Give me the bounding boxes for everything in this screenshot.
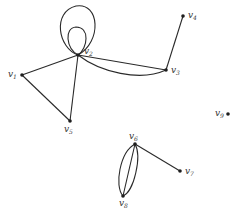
label-v9: v9 bbox=[215, 108, 224, 119]
vertices bbox=[20, 14, 230, 198]
edge-v2-v5 bbox=[70, 55, 78, 121]
edge-v2-loop-large bbox=[60, 6, 95, 55]
label-v3: v3 bbox=[171, 65, 180, 76]
vertex-v7 bbox=[178, 169, 182, 173]
vertex-v1 bbox=[20, 73, 24, 77]
edge-v1-v5 bbox=[22, 75, 70, 121]
label-v7: v7 bbox=[185, 166, 194, 177]
label-v5: v5 bbox=[64, 124, 73, 135]
label-v2: v2 bbox=[84, 46, 93, 57]
vertex-v5 bbox=[68, 119, 72, 123]
graph-diagram: v1 v2 v3 v4 v5 v6 v7 v8 v9 bbox=[0, 0, 244, 221]
label-v1: v1 bbox=[8, 69, 17, 80]
edge-v6-v7 bbox=[135, 144, 180, 171]
label-v8: v8 bbox=[119, 198, 128, 209]
label-v6: v6 bbox=[129, 131, 138, 142]
edge-v1-v2 bbox=[22, 55, 78, 75]
edge-v6-v8-straight bbox=[123, 144, 135, 196]
edge-v2-v3-straight bbox=[78, 55, 166, 70]
vertex-v2 bbox=[76, 53, 80, 57]
edge-v2-v3-curved bbox=[78, 55, 166, 75]
vertex-v9 bbox=[226, 112, 230, 116]
vertex-v6 bbox=[133, 142, 137, 146]
vertex-v3 bbox=[164, 68, 168, 72]
edges bbox=[22, 6, 183, 196]
labels: v1 v2 v3 v4 v5 v6 v7 v8 v9 bbox=[8, 10, 224, 209]
edge-v6-v8-curved-left bbox=[119, 144, 135, 196]
label-v4: v4 bbox=[188, 10, 197, 21]
edge-v3-v4 bbox=[166, 16, 183, 70]
vertex-v4 bbox=[181, 14, 185, 18]
